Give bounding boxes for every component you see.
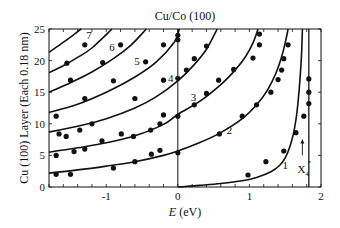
data-point — [285, 42, 290, 47]
data-points — [54, 31, 312, 177]
y-tick-label: 5 — [40, 149, 46, 161]
y-tick-label: 20 — [34, 55, 46, 67]
data-point — [192, 56, 197, 61]
x-tick-label: 2 — [318, 190, 324, 202]
data-point — [204, 91, 209, 96]
data-point — [301, 114, 306, 119]
data-point — [175, 150, 180, 155]
curve-8 — [49, 29, 81, 52]
y-tick-label: 10 — [34, 118, 46, 130]
data-point — [184, 67, 189, 72]
curve-label-5: 5 — [134, 55, 140, 67]
x-tick-label: -1 — [102, 190, 111, 202]
data-point — [82, 42, 87, 47]
data-point — [281, 148, 286, 153]
data-point — [157, 121, 162, 126]
data-point — [293, 130, 298, 135]
x-axis-label: E (eV) — [168, 205, 201, 219]
y-tick-label: 25 — [34, 23, 46, 35]
data-point — [149, 152, 154, 157]
data-point — [306, 101, 311, 106]
data-point — [54, 114, 59, 119]
curve-label-3: 3 — [191, 91, 197, 103]
data-point — [54, 153, 59, 158]
data-point — [250, 55, 255, 60]
curve-label-7: 7 — [86, 29, 92, 41]
data-point — [56, 131, 61, 136]
data-point — [119, 131, 124, 136]
data-point — [118, 42, 123, 47]
data-point — [111, 78, 116, 83]
data-point — [216, 78, 221, 83]
data-point — [161, 112, 166, 117]
curve-label-4: 4 — [168, 72, 174, 84]
arrow-head-icon — [300, 140, 304, 144]
data-point — [77, 128, 82, 133]
data-point — [132, 159, 137, 164]
x-axis-label-unit: (eV) — [176, 205, 201, 219]
chart-title: Cu/Co (100) — [155, 9, 215, 23]
data-point — [132, 96, 137, 101]
data-point — [161, 42, 166, 47]
data-point — [64, 134, 69, 139]
data-point — [281, 56, 286, 61]
data-point — [275, 77, 280, 82]
curve-6 — [49, 29, 146, 92]
chart: Cu/Co (100) Cu (100) Layer (Each 0.18 nm… — [0, 0, 340, 228]
data-point — [143, 59, 148, 64]
x-tick-label: 1 — [247, 190, 253, 202]
data-point — [89, 121, 94, 126]
curve-label-1: 1 — [282, 159, 288, 171]
data-point — [54, 172, 59, 177]
data-point — [68, 78, 73, 83]
data-point — [217, 131, 222, 136]
data-point — [245, 172, 250, 177]
curve-label-2: 2 — [227, 124, 233, 136]
data-point — [263, 159, 268, 164]
x-tick-label: 0 — [175, 190, 181, 202]
data-point — [268, 90, 273, 95]
data-point — [175, 33, 180, 38]
x4-label: X4' — [297, 158, 310, 178]
data-point — [111, 165, 116, 170]
y-axis-label: Cu (100) Layer (Each 0.18 nm) — [17, 32, 31, 183]
data-point — [99, 138, 104, 143]
data-point — [231, 67, 236, 72]
data-point — [157, 148, 162, 153]
curve-label-6: 6 — [109, 41, 115, 53]
data-point — [175, 37, 180, 42]
plot-area: -10120510152025 — [34, 23, 324, 202]
data-point — [257, 31, 262, 36]
y-tick-label: 15 — [34, 86, 46, 98]
data-point — [279, 67, 284, 72]
data-point — [68, 172, 73, 177]
data-point — [64, 61, 69, 66]
data-point — [175, 114, 180, 119]
data-point — [175, 76, 180, 81]
data-point — [257, 42, 262, 47]
curve-labels: 1234567 — [86, 29, 288, 171]
data-point — [71, 149, 76, 154]
data-point — [161, 78, 166, 83]
data-point — [306, 90, 311, 95]
data-point — [148, 128, 153, 133]
y-tick-label: 0 — [40, 181, 46, 193]
data-point — [131, 134, 136, 139]
data-point — [82, 96, 87, 101]
data-point — [204, 43, 209, 48]
data-point — [306, 76, 311, 81]
data-point — [254, 102, 259, 107]
data-point — [100, 60, 105, 65]
data-point — [240, 114, 245, 119]
data-point — [82, 146, 87, 151]
plot-frame — [49, 29, 321, 187]
